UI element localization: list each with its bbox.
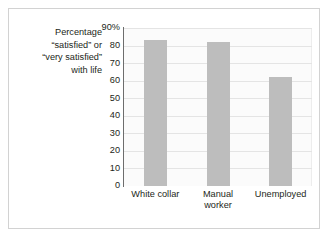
y-tick-label: 40 <box>90 111 120 120</box>
plot-area <box>124 28 312 186</box>
y-tick-label: 70 <box>90 59 120 68</box>
y-axis-line <box>123 27 124 187</box>
y-tick-label: 20 <box>90 146 120 155</box>
bar <box>207 42 230 186</box>
chart-figure: Percentage “satisfied” or “very satisfie… <box>0 0 328 237</box>
x-axis-tick-labels: White collarManual workerUnemployed <box>124 189 312 229</box>
y-tick-label: 50 <box>90 94 120 103</box>
y-tick-label: 90% <box>90 23 120 32</box>
y-tick-label: 60 <box>90 76 120 85</box>
bar <box>269 77 292 186</box>
y-axis-tick-labels: 0102030405060708090% <box>88 0 120 237</box>
bar <box>144 40 167 186</box>
y-tick-label: 80 <box>90 41 120 50</box>
x-tick-label: Unemployed <box>243 189 318 200</box>
y-tick-label: 10 <box>90 164 120 173</box>
y-tick-label: 30 <box>90 129 120 138</box>
gridline <box>124 28 312 29</box>
y-tick-label: 0 <box>90 181 120 190</box>
